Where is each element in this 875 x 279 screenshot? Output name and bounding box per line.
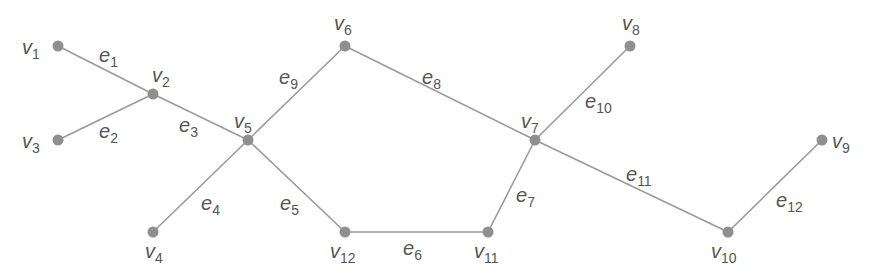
nodes-layer [53, 41, 828, 238]
edge-e5 [248, 140, 345, 232]
edge-e7 [488, 140, 535, 232]
edge-label-e6: e6 [403, 237, 422, 263]
vertex-label-v9: v9 [832, 130, 850, 156]
edge-e8 [345, 46, 535, 140]
vertex-label-v8: v8 [622, 12, 640, 38]
edge-label-e5: e5 [280, 192, 299, 218]
edge-e9 [248, 46, 345, 140]
vertex-v5 [243, 135, 254, 146]
vertex-label-v10: v10 [711, 240, 737, 266]
vertex-v8 [625, 41, 636, 52]
vertex-label-v2: v2 [152, 64, 170, 90]
vertex-label-v3: v3 [22, 130, 40, 156]
vertex-label-v6: v6 [334, 12, 352, 38]
edge-label-e9: e9 [279, 66, 298, 92]
vertex-v9 [817, 135, 828, 146]
vertex-v7 [530, 135, 541, 146]
vertex-label-v5: v5 [234, 110, 252, 136]
edge-label-e12: e12 [776, 189, 803, 215]
vertex-v3 [53, 135, 64, 146]
vertex-label-v11: v11 [474, 240, 499, 266]
vertex-label-v12: v12 [330, 240, 356, 266]
edge-label-e7: e7 [516, 184, 535, 210]
vertex-v6 [340, 41, 351, 52]
edge-label-e2: e2 [99, 120, 118, 146]
edge-label-e10: e10 [585, 90, 612, 116]
edge-e10 [535, 46, 630, 140]
vertex-v2 [148, 89, 159, 100]
edge-label-e3: e3 [179, 114, 198, 140]
vertex-v11 [483, 227, 494, 238]
vertex-label-v1: v1 [22, 36, 40, 62]
vertex-label-v7: v7 [521, 110, 539, 136]
edge-e4 [153, 140, 248, 232]
vertex-label-v4: v4 [145, 240, 163, 266]
edge-label-e1: e1 [99, 44, 118, 70]
edge-e12 [728, 140, 822, 232]
vertex-v12 [340, 227, 351, 238]
vertex-v4 [148, 227, 159, 238]
graph-diagram: e1e2e3e4e5e6e7e8e9e10e11e12v1v2v3v4v5v6v… [0, 0, 875, 279]
vertex-v10 [723, 227, 734, 238]
edge-e11 [535, 140, 728, 232]
edges-layer [58, 46, 822, 232]
edge-label-e4: e4 [201, 192, 220, 218]
vertex-v1 [53, 41, 64, 52]
